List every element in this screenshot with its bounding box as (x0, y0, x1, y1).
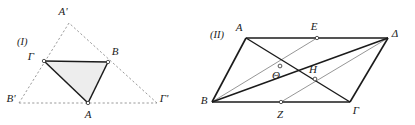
point-label-gamma: Γ (27, 50, 35, 62)
parallelogram-diagonals (212, 38, 388, 102)
point-label-b: B (112, 45, 119, 57)
point-marker-h (313, 77, 317, 81)
point-label-a: A (84, 108, 92, 120)
diagonal-b-delta (212, 38, 388, 102)
point-marker-theta (278, 64, 282, 68)
geometry-diagram: (I) A' Γ B A B' Γ' (0, 0, 415, 125)
point-label-gamma-prime: Γ' (159, 92, 169, 104)
point-label-e: E (310, 20, 318, 32)
figure-label-two: (II) (210, 29, 224, 41)
figure-label-one: (I) (17, 36, 28, 48)
point-label-b-prime: B' (6, 92, 16, 104)
point-label-delta: Δ (391, 27, 398, 39)
point-label-b-two: B (201, 94, 208, 106)
vertex-marker-a (86, 101, 89, 104)
point-label-a-two: A (235, 21, 243, 33)
segment-gamma-b (44, 61, 108, 62)
point-marker-z (279, 100, 282, 103)
figure-two: (II) A E Δ Θ H B Z Γ (201, 20, 399, 120)
point-label-z: Z (277, 108, 284, 120)
point-label-theta: Θ (272, 69, 280, 81)
vertex-marker-b (106, 60, 109, 63)
vertex-marker-gamma (42, 59, 45, 62)
point-label-a-prime: A' (57, 5, 68, 17)
geometry-figure-sheet: (I) A' Γ B A B' Γ' (0, 0, 415, 125)
point-label-h: H (308, 63, 318, 75)
side-delta-gamma (350, 38, 388, 102)
point-marker-e (315, 36, 318, 39)
point-label-gamma-two: Γ (352, 104, 360, 116)
figure-one: (I) A' Γ B A B' Γ' (6, 5, 168, 120)
side-b-a (212, 38, 246, 102)
